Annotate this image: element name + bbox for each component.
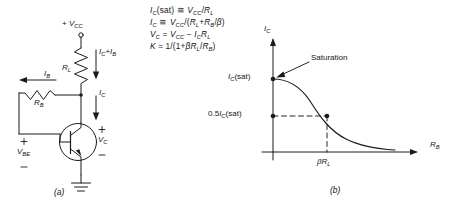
figure-canvas — [0, 0, 458, 215]
equation-k: K = 1/(1+βRL/RB) — [150, 42, 216, 51]
label-base-resistor: RB — [34, 99, 44, 107]
label-load-resistor: RL — [62, 64, 71, 72]
panel-b-caption: (b) — [330, 186, 340, 195]
equation-vc: VC = VCC − ICRL — [150, 30, 211, 39]
marker-ic-sat — [271, 77, 276, 82]
marker-half-ic-sat-axis — [271, 114, 276, 119]
marker-half-ic-sat-curve — [325, 114, 330, 119]
label-vcc: + VCC — [62, 20, 83, 28]
ytick-label-ic-sat: IC(sat) — [228, 73, 250, 81]
y-axis-label: IC — [264, 25, 270, 33]
label-collector-current: IC — [99, 89, 105, 97]
x-axis-label: RB — [430, 141, 440, 149]
label-collector-voltage: VC — [98, 136, 108, 144]
equation-ic-sat: IC(sat) ≅ VCC/RL — [150, 6, 214, 15]
figure-background — [0, 0, 458, 215]
vcc-node — [79, 33, 83, 37]
saturation-annotation: Saturation — [311, 54, 347, 62]
xtick-label-beta-rl: βRL — [317, 158, 331, 166]
label-base-emitter-voltage: VBE — [17, 148, 30, 156]
panel-a-caption: (a) — [54, 188, 64, 197]
ytick-label-half-ic-sat: 0.5IC(sat) — [208, 110, 242, 118]
equation-ic: IC ≅ VCC/(RL+RB/β) — [150, 18, 225, 27]
label-base-current: IB — [44, 70, 50, 78]
label-supply-current: IC+IB — [99, 48, 116, 56]
